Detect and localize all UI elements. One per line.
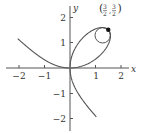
y-tick-label: −1	[53, 89, 66, 99]
y-tick-label: 1	[60, 38, 66, 48]
x-axis-label: x	[131, 64, 136, 74]
svg-text:2: 2	[112, 10, 116, 17]
folium-chart: −2 −1 1 2 2 1 −1 −2 x y ( 3 2 , 3 2 )	[0, 0, 141, 134]
svg-text:2: 2	[103, 10, 107, 17]
point-label: ( 3 2 , 3 2 )	[99, 2, 122, 17]
svg-text:,: ,	[109, 7, 111, 15]
y-tick-label: 2	[60, 13, 66, 23]
x-tick-label: 2	[118, 71, 124, 81]
point-marker	[106, 28, 110, 32]
x-tick-label: −1	[38, 71, 51, 81]
svg-text:3: 3	[112, 3, 116, 10]
y-tick-label: −2	[53, 114, 66, 124]
svg-text:): )	[118, 2, 122, 15]
x-tick-label: 1	[93, 71, 99, 81]
svg-text:3: 3	[103, 3, 107, 10]
y-axis-label: y	[72, 3, 79, 13]
folium-curve-loop-and-upper-branch	[70, 28, 110, 68]
folium-curve-lower-branch	[18, 39, 97, 117]
x-tick-label: −2	[12, 71, 25, 81]
